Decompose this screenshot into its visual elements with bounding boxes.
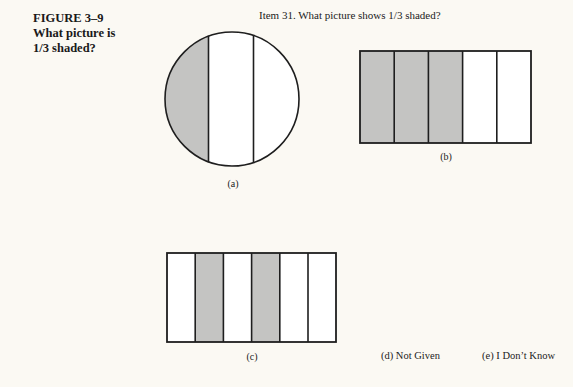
rect-c-part-4 bbox=[252, 253, 280, 342]
circle-shaded-part bbox=[160, 28, 209, 173]
rect-b-part-2 bbox=[394, 51, 428, 143]
rect-b-part-1 bbox=[360, 51, 394, 143]
rect-c-part-5 bbox=[280, 253, 308, 342]
option-e-dont-know[interactable]: (e) I Don’t Know bbox=[482, 350, 555, 361]
rect-c-part-3 bbox=[223, 253, 251, 342]
option-c-label[interactable]: (c) bbox=[246, 351, 257, 362]
figures-canvas bbox=[0, 0, 573, 387]
rect-c-part-2 bbox=[195, 253, 223, 342]
rect-b-part-5 bbox=[497, 51, 531, 143]
option-c-rectangle[interactable] bbox=[167, 253, 336, 342]
option-d-not-given[interactable]: (d) Not Given bbox=[381, 350, 440, 361]
option-a-circle[interactable] bbox=[160, 28, 299, 173]
rect-c-part-1 bbox=[167, 253, 195, 342]
rect-b-part-4 bbox=[463, 51, 497, 143]
option-b-rectangle[interactable] bbox=[360, 51, 531, 143]
option-a-label[interactable]: (a) bbox=[227, 178, 238, 189]
rect-b-part-3 bbox=[428, 51, 462, 143]
option-b-label[interactable]: (b) bbox=[440, 151, 452, 162]
rect-c-part-6 bbox=[308, 253, 336, 342]
